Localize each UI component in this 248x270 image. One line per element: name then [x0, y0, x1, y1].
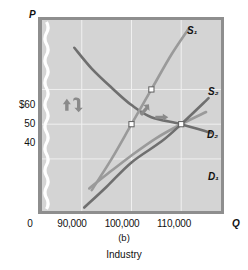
curve-label-s2-text: S₂: [208, 86, 218, 97]
curve-label-s1: S₁: [187, 25, 197, 36]
y-tick-50-label: 50: [24, 118, 35, 129]
curve-label-d2: D₂: [207, 129, 218, 140]
curve-label-d1-text: D₁: [208, 171, 219, 182]
curve-label-s2: S₂: [208, 86, 218, 97]
curve-label-d1: D₁: [208, 171, 219, 182]
supply-demand-figure: P Q $60 50 40 0 90,000 100,000 110,000 S…: [0, 0, 248, 270]
y-tick-60-label: $60: [19, 99, 35, 110]
intermediate-equilibrium: [149, 87, 154, 92]
y-axis-letter: P: [29, 9, 36, 20]
figure-title: Industry: [0, 249, 248, 260]
x-tick-110000: 110,000: [144, 218, 204, 229]
y-tick-40-label: 40: [24, 137, 35, 148]
curve-label-d2-text: D₂: [207, 129, 218, 140]
panel-caption: (b): [0, 232, 248, 243]
x-axis-letter: Q: [232, 218, 240, 229]
final-equilibrium: [179, 122, 184, 127]
x-tick-origin: 0: [22, 218, 38, 229]
initial-equilibrium: [129, 122, 134, 127]
curve-label-s1-text: S₁: [187, 25, 197, 36]
x-tick-100000: 100,000: [92, 218, 152, 229]
